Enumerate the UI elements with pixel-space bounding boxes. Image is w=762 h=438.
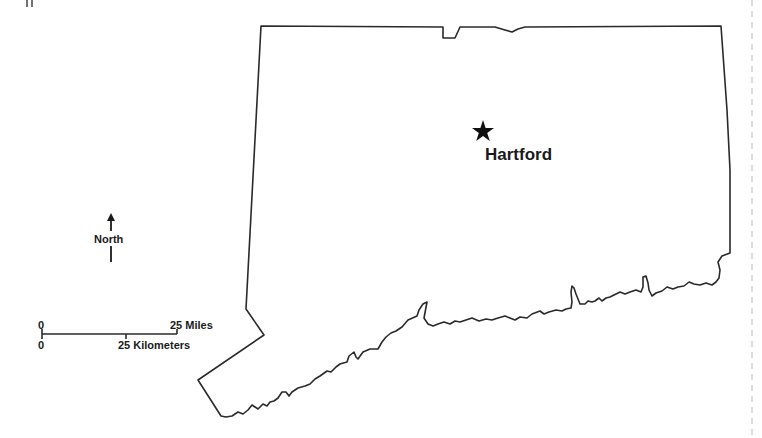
scale-km-end: 25 Kilometers (118, 339, 190, 351)
corner-fragment (27, 0, 32, 7)
map-canvas (0, 0, 762, 438)
scale-bar (42, 329, 177, 339)
capital-label: Hartford (485, 145, 552, 165)
star-icon (472, 120, 494, 141)
north-label: North (94, 233, 123, 245)
scale-km-start: 0 (38, 339, 44, 351)
scale-miles-start: 0 (38, 319, 44, 331)
state-outline (198, 26, 730, 417)
scale-miles-end: 25 Miles (170, 319, 213, 331)
